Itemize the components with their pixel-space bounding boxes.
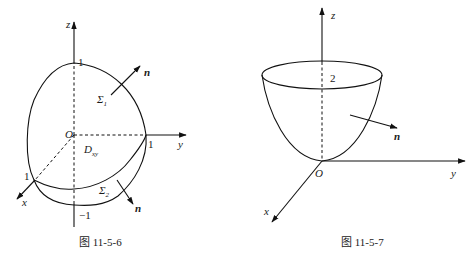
diagram-sphere-surface: z y x O 1 −1 1 1 Σ1 Σ2 Dxy n n 图 11-5-6 bbox=[0, 0, 237, 258]
z-axis-label: z bbox=[330, 9, 336, 21]
figure-11-5-6: z y x O 1 −1 1 1 Σ1 Σ2 Dxy n n 图 11-5-6 bbox=[0, 0, 237, 258]
figure-11-5-7: z 2 O y x n 图 11-5-7 bbox=[237, 0, 474, 258]
tick-z-2: 2 bbox=[330, 72, 336, 84]
surface-sigma2-label: Σ2 bbox=[98, 184, 110, 199]
normal-label: n bbox=[394, 130, 400, 142]
normal-vector-upper bbox=[111, 66, 140, 95]
figure-caption: 图 11-5-6 bbox=[79, 236, 122, 248]
tick-z-bottom: −1 bbox=[79, 209, 91, 221]
normal-vector-lower bbox=[117, 180, 133, 204]
y-axis-label: y bbox=[177, 138, 183, 150]
surface-outline bbox=[27, 63, 146, 205]
origin-label: O bbox=[315, 167, 323, 179]
tick-y: 1 bbox=[148, 138, 154, 150]
x-axis-label: x bbox=[263, 205, 269, 217]
x-axis-label: x bbox=[21, 196, 27, 208]
normal-label-upper: n bbox=[144, 66, 150, 78]
normal-label-lower: n bbox=[135, 202, 141, 214]
x-axis-hidden bbox=[35, 135, 74, 180]
normal-vector bbox=[350, 115, 397, 128]
diagram-paraboloid: z 2 O y x n 图 11-5-7 bbox=[237, 0, 474, 258]
y-axis-label: y bbox=[450, 167, 456, 179]
tick-z-top: 1 bbox=[78, 56, 84, 68]
surface-sigma1-label: Σ1 bbox=[96, 93, 107, 108]
region-dxy-label: Dxy bbox=[83, 143, 99, 158]
tick-x: 1 bbox=[24, 170, 30, 182]
figure-caption: 图 11-5-7 bbox=[341, 236, 384, 248]
origin-label: O bbox=[65, 128, 73, 140]
z-axis-label: z bbox=[65, 18, 71, 30]
